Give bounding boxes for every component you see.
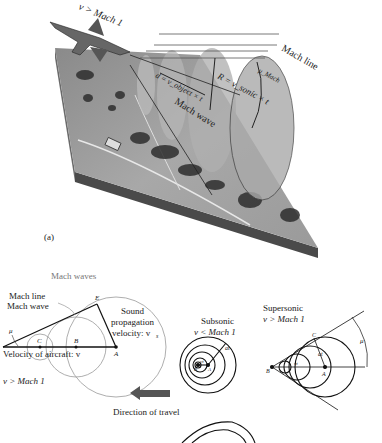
speed-label: v > Mach 1 bbox=[77, 1, 124, 29]
supersonic-wavefronts bbox=[271, 311, 368, 410]
supersonic-condition: v > Mach 1 bbox=[263, 314, 305, 324]
mach-line-label-b: Mach line bbox=[9, 291, 45, 301]
supersonic-point-b: B bbox=[266, 368, 270, 374]
supersonic-vt-label: vt bbox=[294, 361, 298, 366]
point-c: C bbox=[37, 337, 42, 345]
mach-waves-title: Mach waves bbox=[51, 271, 97, 281]
subsonic-point-b: B bbox=[194, 367, 197, 372]
mu-label-b: μ bbox=[9, 327, 13, 335]
supersonic-point-a: A bbox=[321, 371, 326, 377]
partial-lower-wavefronts bbox=[182, 422, 255, 443]
sound-label-2: propagation bbox=[111, 317, 154, 327]
supersonic-at-label: at bbox=[318, 351, 323, 357]
direction-label: Direction of travel bbox=[113, 407, 180, 417]
point-b: B bbox=[74, 337, 79, 345]
supersonic-point-c: C bbox=[312, 332, 317, 338]
direction-arrow-icon bbox=[130, 386, 170, 400]
subsonic-vt-label: vt bbox=[200, 359, 204, 364]
mach-line-label: Mach line bbox=[280, 42, 321, 72]
subsonic-title: Subsonic bbox=[201, 316, 234, 326]
speed-condition-b: v > Mach 1 bbox=[3, 376, 45, 386]
mach-wave-label-b: Mach wave bbox=[7, 301, 49, 311]
point-a: A bbox=[113, 350, 119, 358]
sound-label-1: Sound bbox=[121, 306, 145, 316]
diagram-canvas: v > Mach 1 Mach line Mach wave d = v_obj… bbox=[0, 0, 382, 443]
sound-label-3: velocity: v bbox=[112, 328, 151, 338]
subsonic-condition: v < Mach 1 bbox=[194, 327, 236, 337]
sound-label-sub: s bbox=[156, 333, 159, 339]
point-e: E bbox=[94, 294, 100, 302]
subsonic-at-label: at bbox=[225, 345, 230, 351]
subsonic-point-a: A bbox=[207, 367, 212, 372]
panel-a-label: (a) bbox=[44, 232, 54, 242]
supersonic-title: Supersonic bbox=[263, 303, 303, 313]
aircraft-velocity-label: Velocity of aircraft: v bbox=[3, 349, 81, 359]
supersonic-mu-label: μ bbox=[360, 337, 364, 345]
